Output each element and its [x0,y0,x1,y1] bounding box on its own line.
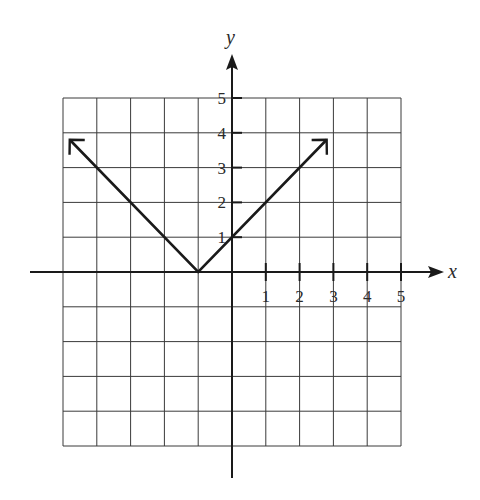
y-tick-labels: 12345 [218,89,227,247]
axes [30,54,444,478]
x-tick-label: 1 [262,287,271,306]
x-tick-labels: 12345 [262,287,406,306]
y-tick-label: 3 [218,159,227,178]
y-tick-label: 1 [218,228,227,247]
x-tick-label: 4 [363,287,372,306]
x-axis-label: x [447,260,457,282]
y-tick-label: 5 [218,89,227,108]
y-axis-label: y [224,26,235,49]
y-tick-label: 2 [218,193,227,212]
tick-marks [231,98,401,281]
x-tick-label: 2 [295,287,304,306]
y-tick-label: 4 [218,124,227,143]
x-tick-label: 5 [397,287,406,306]
x-tick-label: 3 [329,287,338,306]
coordinate-plane: x y 12345 12345 [0,0,480,500]
